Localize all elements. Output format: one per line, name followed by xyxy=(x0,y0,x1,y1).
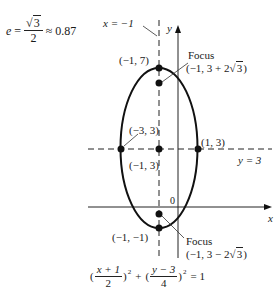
sqrt-icon: √3 xyxy=(230,63,244,74)
x-axis-label: x xyxy=(268,213,273,224)
sqrt-icon: √3 xyxy=(230,249,244,260)
point-top-vertex xyxy=(156,65,163,72)
point-left-vertex xyxy=(118,146,125,153)
upper-focus-coords: (−1, 3 + 2√3) xyxy=(186,63,247,74)
lower-focus-title: Focus xyxy=(186,236,212,247)
y-axis-label: y xyxy=(167,23,172,34)
leader-directrix xyxy=(143,26,157,36)
horizontal-line-label: y = 3 xyxy=(238,155,261,166)
directrix-label: x = −1 xyxy=(103,18,134,29)
point-upper-focus xyxy=(156,80,163,87)
y-axis-arrow-icon xyxy=(175,25,181,33)
origin-label: 0 xyxy=(170,196,175,206)
x-axis-arrow-icon xyxy=(264,204,272,210)
point-center xyxy=(156,146,163,153)
eccentricity-formula: e = √3 2 ≈ 0.87 xyxy=(6,17,76,44)
upper-focus-title: Focus xyxy=(188,50,214,61)
eccentricity-fraction: √3 2 xyxy=(24,17,43,44)
bottom-vertex-label: (−1, −1) xyxy=(112,232,148,243)
leader-upper-focus xyxy=(162,63,188,82)
top-vertex-label: (−1, 7) xyxy=(119,55,149,66)
center-label: (−1, 3) xyxy=(129,160,159,171)
ellipse-equation: ( x + 1 2 )2 + ( y − 3 4 )2 = 1 xyxy=(90,264,205,289)
eccentricity-approx: ≈ 0.87 xyxy=(46,25,77,37)
point-bottom-vertex xyxy=(156,225,163,232)
eccentricity-symbol: e xyxy=(6,25,11,37)
right-vertex-label: (1, 3) xyxy=(201,137,225,148)
eccentricity-equals: = xyxy=(14,25,21,37)
lower-focus-coords: (−1, 3 − 2√3) xyxy=(186,249,247,260)
left-vertex-label: (−3, 3) xyxy=(129,125,159,136)
point-lower-focus xyxy=(156,211,163,218)
sqrt-icon: √3 xyxy=(26,17,41,29)
